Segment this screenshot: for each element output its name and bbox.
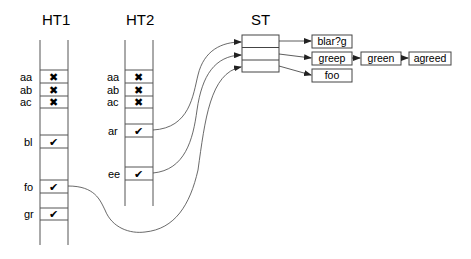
- chain-node-green: green: [368, 52, 395, 64]
- check-mark-icon: ✔: [134, 125, 143, 137]
- deleted-mark-icon: ✖: [49, 84, 58, 96]
- ht1-key-ab: ab: [20, 84, 32, 96]
- ht1-key-ac: ac: [20, 96, 32, 108]
- ht1-labels: aa ab ac bl fo gr ✖ ✖ ✖ ✔ ✔ ✔: [20, 71, 58, 220]
- deleted-mark-icon: ✖: [134, 71, 143, 83]
- ht1-key-gr: gr: [24, 208, 34, 220]
- ht1-key-fo: fo: [24, 181, 33, 193]
- st-title: ST: [251, 11, 270, 28]
- ht1-key-aa: aa: [20, 71, 33, 83]
- ht1-key-bl: bl: [24, 136, 33, 148]
- ht2-key-ac: ac: [107, 96, 119, 108]
- deleted-mark-icon: ✖: [134, 84, 143, 96]
- check-mark-icon: ✔: [49, 181, 58, 193]
- check-mark-icon: ✔: [134, 168, 143, 180]
- ht2-key-ee: ee: [108, 168, 120, 180]
- check-mark-icon: ✔: [49, 136, 58, 148]
- ht2-table: [125, 40, 153, 206]
- chain-node-agreed: agreed: [414, 52, 447, 64]
- pointer-curves: [68, 42, 241, 232]
- chain-node-greep: greep: [319, 52, 346, 64]
- ht2-title: HT2: [126, 11, 154, 28]
- check-mark-icon: ✔: [49, 208, 58, 220]
- st-chains: blar?g greep green agreed foo: [312, 35, 451, 82]
- deleted-mark-icon: ✖: [49, 96, 58, 108]
- hash-table-diagram: HT1 HT2 ST aa ab ac bl fo gr ✖ ✖ ✖ ✔ ✔ ✔: [0, 0, 471, 259]
- deleted-mark-icon: ✖: [49, 71, 58, 83]
- st-table: [242, 35, 279, 72]
- ht2-key-ab: ab: [107, 84, 119, 96]
- chain-node-blarg: blar?g: [317, 35, 346, 47]
- ht2-key-aa: aa: [107, 71, 120, 83]
- chain-node-foo: foo: [325, 69, 340, 81]
- deleted-mark-icon: ✖: [134, 96, 143, 108]
- ht1-title: HT1: [42, 11, 70, 28]
- ht2-key-ar: ar: [108, 125, 118, 137]
